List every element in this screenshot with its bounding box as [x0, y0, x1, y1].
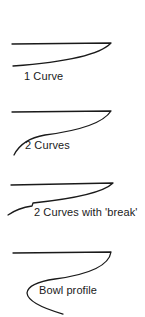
- profiles-diagram: [0, 0, 145, 317]
- label-two-curves-break: 2 Curves with 'break': [34, 207, 138, 218]
- label-bowl-profile: Bowl profile: [39, 285, 97, 296]
- label-two-curves: 2 Curves: [25, 140, 70, 151]
- profile-one-curve: [12, 43, 111, 66]
- label-one-curve: 1 Curve: [24, 71, 63, 82]
- profile-bowl: [13, 252, 111, 314]
